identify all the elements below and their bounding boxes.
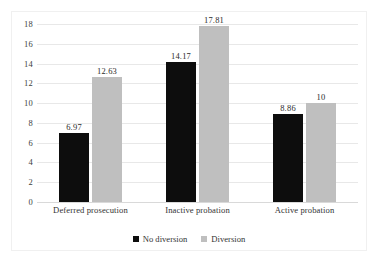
x-tick-label: Deferred prosecution: [37, 205, 144, 215]
legend-label: No diversion: [143, 234, 188, 244]
bar-chart-figure: 181614121086420 6.9712.6314.1717.818.861…: [0, 0, 378, 263]
legend-swatch-black-icon: [133, 236, 139, 242]
y-tick-label: 12: [11, 78, 33, 88]
x-tick-label: Inactive probation: [144, 205, 251, 215]
bar-no-diversion[interactable]: [273, 114, 303, 202]
bar-group: 6.9712.63: [37, 24, 144, 202]
y-tick-label: 2: [11, 177, 33, 187]
y-axis: 181614121086420: [11, 24, 33, 202]
y-tick-label: 0: [11, 197, 33, 207]
bar-group: 8.8610: [251, 24, 358, 202]
axis-baseline: [37, 202, 358, 203]
bar-wrapper: 14.17: [166, 24, 196, 202]
y-tick-label: 4: [11, 157, 33, 167]
x-tick-label: Active probation: [251, 205, 358, 215]
y-tick-label: 16: [11, 39, 33, 49]
bar-wrapper: 10: [306, 24, 336, 202]
chart-legend: No diversionDiversion: [11, 234, 367, 244]
y-tick-label: 18: [11, 19, 33, 29]
legend-item[interactable]: No diversion: [133, 234, 188, 244]
y-tick-label: 6: [11, 138, 33, 148]
bar-value-label: 8.86: [280, 103, 296, 113]
bar-value-label: 17.81: [204, 15, 224, 25]
x-axis: Deferred prosecutionInactive probationAc…: [37, 205, 358, 215]
bar-group: 14.1717.81: [144, 24, 251, 202]
bar-value-label: 10: [317, 92, 326, 102]
bar-no-diversion[interactable]: [59, 133, 89, 202]
bar-no-diversion[interactable]: [166, 62, 196, 202]
bar-wrapper: 6.97: [59, 24, 89, 202]
bar-wrapper: 17.81: [199, 24, 229, 202]
legend-label: Diversion: [211, 234, 245, 244]
bar-diversion[interactable]: [92, 77, 122, 202]
legend-item[interactable]: Diversion: [201, 234, 245, 244]
bar-wrapper: 8.86: [273, 24, 303, 202]
bar-diversion[interactable]: [199, 26, 229, 202]
legend-swatch-gray-icon: [201, 236, 207, 242]
bar-value-label: 6.97: [66, 122, 82, 132]
bar-groups: 6.9712.6314.1717.818.8610: [37, 24, 358, 202]
bar-wrapper: 12.63: [92, 24, 122, 202]
bar-value-label: 12.63: [97, 66, 117, 76]
bar-value-label: 14.17: [171, 51, 191, 61]
y-tick-label: 14: [11, 59, 33, 69]
y-tick-label: 8: [11, 118, 33, 128]
y-tick-label: 10: [11, 98, 33, 108]
bar-diversion[interactable]: [306, 103, 336, 202]
